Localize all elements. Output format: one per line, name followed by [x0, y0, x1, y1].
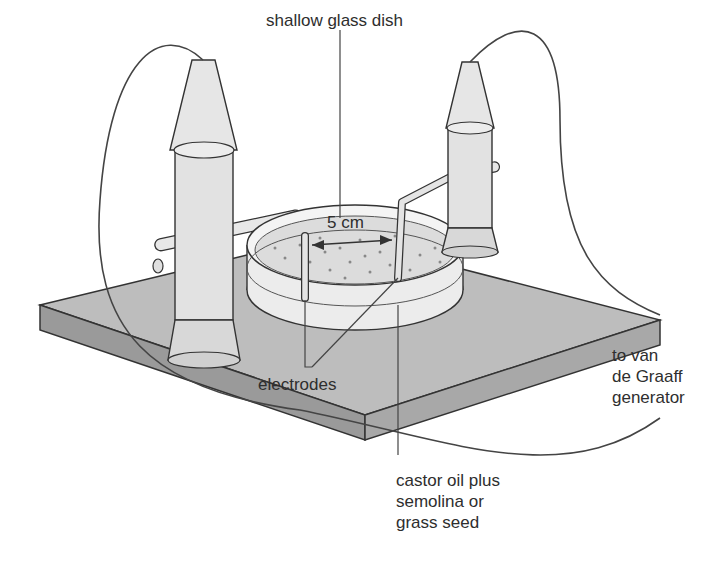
- electrodes-label: electrodes: [258, 374, 336, 395]
- generator-label-line3: generator: [612, 387, 685, 408]
- left-electrode-holder: [168, 60, 240, 368]
- distance-label: 5 cm: [327, 212, 364, 233]
- medium-label-line3: grass seed: [396, 512, 479, 533]
- apparatus-diagram: [0, 0, 716, 562]
- right-electrode-holder: [442, 62, 498, 258]
- generator-label-line1: to van: [612, 345, 658, 366]
- dish-label: shallow glass dish: [266, 10, 403, 31]
- medium-label-line2: semolina or: [396, 491, 484, 512]
- generator-label-line2: de Graaff: [612, 366, 683, 387]
- medium-label-line1: castor oil plus: [396, 470, 500, 491]
